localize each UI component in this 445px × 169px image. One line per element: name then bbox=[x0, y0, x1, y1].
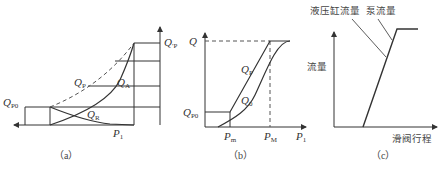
panel-b-label-p1: P1 bbox=[296, 131, 306, 144]
panel-a-label-qr: QR bbox=[87, 109, 100, 122]
panel-c-label-pump-flow: 泵流量 bbox=[366, 6, 396, 16]
panel-a-label-qa: QA bbox=[117, 77, 130, 90]
panel-a-label-qp: QP bbox=[74, 77, 86, 90]
panel-c-caption: （c） bbox=[371, 151, 395, 161]
panel-b-label-qp0: QP0 bbox=[183, 107, 198, 120]
panel-b-label-q: Q bbox=[189, 36, 197, 47]
panel-b-label-pM: PM bbox=[264, 131, 277, 144]
panel-c-label-cylinder-flow: 液压缸流量 bbox=[310, 6, 360, 16]
panel-c-flow-line bbox=[363, 29, 418, 127]
panel-c-label-y-axis: 流量 bbox=[307, 62, 327, 72]
panel-b bbox=[205, 33, 306, 127]
panel-b-label-q0: Q0 bbox=[241, 95, 252, 108]
panel-a-label-p1: P1 bbox=[113, 128, 123, 141]
panel-a-caption: （a） bbox=[54, 151, 78, 161]
panel-a-label-qp-prime: Q′P bbox=[164, 37, 177, 50]
panel-b-label-pm: Pm bbox=[224, 131, 236, 144]
panel-b-caption: （b） bbox=[228, 151, 253, 161]
panel-b-label-qp: QP bbox=[241, 64, 253, 77]
panel-a-label-qp0: QP0 bbox=[3, 97, 18, 110]
panel-a-qp-dashed bbox=[50, 43, 134, 107]
panel-c bbox=[334, 19, 437, 127]
panel-b-q0-curve bbox=[218, 41, 290, 127]
panel-c-label-x-axis: 滑阀行程 bbox=[392, 134, 432, 144]
diagram-canvas bbox=[0, 0, 445, 169]
